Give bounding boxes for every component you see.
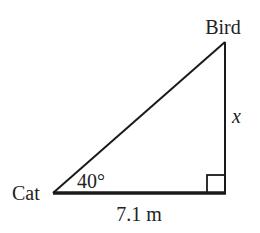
cat-label: Cat	[12, 182, 40, 204]
triangle-diagram: Bird Cat 40° 7.1 m x	[0, 0, 260, 233]
bird-label: Bird	[205, 16, 241, 38]
base-label: 7.1 m	[116, 203, 162, 225]
height-label: x	[231, 105, 241, 127]
angle-label: 40°	[77, 170, 105, 192]
right-angle-marker	[207, 175, 225, 193]
